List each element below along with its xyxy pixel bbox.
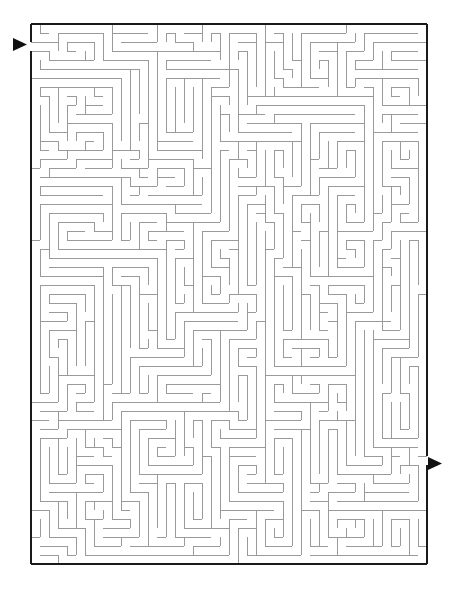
maze-page [0,0,460,589]
maze-figure [0,0,460,589]
